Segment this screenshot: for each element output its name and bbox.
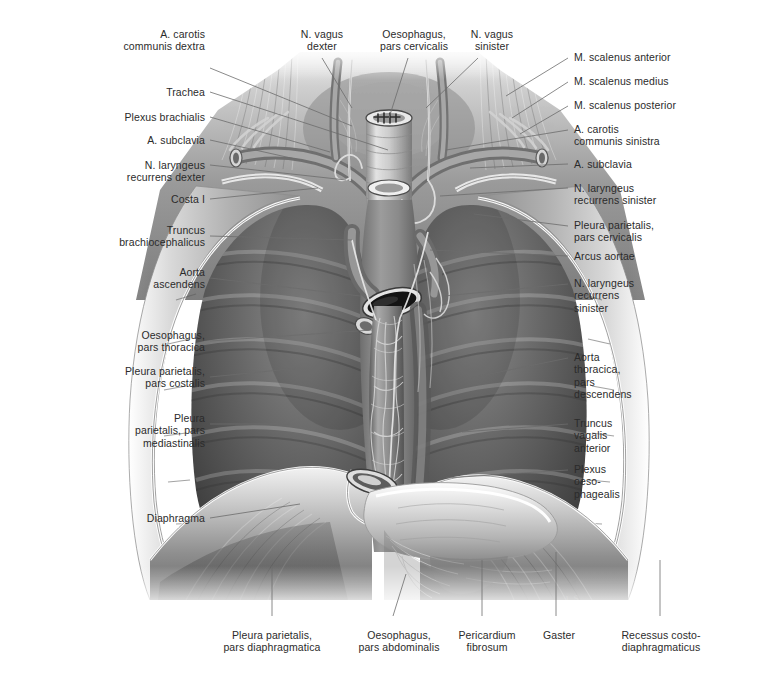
label-pericardium-fibrosum: Pericardiumfibrosum <box>458 629 515 654</box>
label-aorta-ascendens: Aortaascendens <box>153 266 205 291</box>
label-a-carotis-communis-sinistra: A. carotiscommunis sinistra <box>574 123 660 148</box>
label-recessus-costo-diaphragmaticus: Recessus costo-diaphragmaticus <box>621 629 700 654</box>
label-m-scalenus-medius: M. scalenus medius <box>574 75 669 87</box>
label-oesophagus-pars-thoracica: Oesophagus,pars thoracica <box>138 329 205 354</box>
anatomical-plate: L.S. <box>0 0 778 683</box>
label-n-vagus-dexter: N. vagusdexter <box>301 28 343 53</box>
label-arcus-aortae: Arcus aortae <box>574 250 635 262</box>
label-diaphragma: Diaphragma <box>147 512 205 524</box>
label-trachea: Trachea <box>166 86 205 98</box>
label-n-vagus-sinister: N. vagussinister <box>471 28 513 53</box>
label-oesophagus-pars-cervicalis: Oesophagus,pars cervicalis <box>380 28 448 53</box>
label-pleura-parietalis-pars-cervicalis: Pleura parietalis,pars cervicalis <box>574 219 654 244</box>
label-plexus-oesophagealis: Plexusoeso-phagealis <box>574 463 620 500</box>
label-n-laryngeus-recurrens-sinister-upper: N. laryngeusrecurrens sinister <box>574 182 656 207</box>
label-gaster: Gaster <box>543 629 575 641</box>
label-pleura-parietalis-pars-diaphragmatica: Pleura parietalis,pars diaphragmatica <box>223 629 320 654</box>
label-m-scalenus-posterior: M. scalenus posterior <box>574 99 676 111</box>
label-a-subclavia-sinistra: A. subclavia <box>574 158 632 170</box>
label-pleura-parietalis-pars-mediastinalis: Pleuraparietalis, parsmediastinalis <box>135 412 205 449</box>
label-oesophagus-pars-abdominalis: Oesophagus,pars abdominalis <box>358 629 439 654</box>
label-n-laryngeus-recurrens-dexter: N. laryngeusrecurrens dexter <box>127 159 205 184</box>
label-truncus-brachiocephalicus: Truncusbrachiocephalicus <box>119 224 205 249</box>
label-a-carotis-communis-dextra: A. carotiscommunis dextra <box>123 28 205 53</box>
label-a-subclavia-dextra: A. subclavia <box>147 134 205 146</box>
label-n-laryngeus-recurrens-sinister-lower: N. laryngeusrecurrenssinister <box>574 277 634 314</box>
label-plexus-brachialis: Plexus brachialis <box>124 111 205 123</box>
label-pleura-parietalis-pars-costalis: Pleura parietalis,pars costalis <box>125 365 205 390</box>
label-costa-i: Costa I <box>171 193 205 205</box>
label-truncus-vagalis-anterior: Truncusvagalisanterior <box>574 417 612 454</box>
label-aorta-thoracica-pars-descendens: Aortathoracica,parsdescendens <box>574 351 632 401</box>
label-m-scalenus-anterior: M. scalenus anterior <box>574 51 671 63</box>
